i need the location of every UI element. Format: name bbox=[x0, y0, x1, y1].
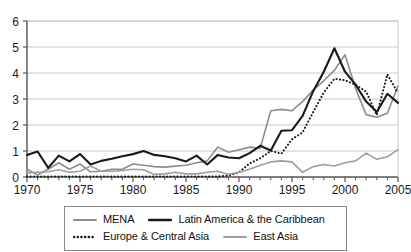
y-tick-labels: 0123456 bbox=[12, 15, 19, 185]
y-tick-label: 6 bbox=[12, 15, 19, 29]
y-tick-label: 4 bbox=[12, 67, 19, 81]
y-tick-label: 2 bbox=[12, 119, 19, 133]
legend-label: MENA bbox=[103, 214, 134, 225]
line-chart: 0123456 19701975198019851990199520002005… bbox=[0, 0, 411, 252]
chart-legend: MENALatin America & the CaribbeanEurope … bbox=[64, 206, 347, 251]
legend-item-europe-central-asia[interactable]: Europe & Central Asia bbox=[73, 231, 209, 242]
x-tick-label: 1995 bbox=[279, 183, 306, 196]
legend-swatch-solid-line-icon bbox=[148, 215, 172, 225]
legend-row: Europe & Central AsiaEast Asia bbox=[73, 228, 338, 245]
x-tick-labels: 19701975198019851990199520002005 bbox=[14, 183, 411, 196]
legend-item-east-asia[interactable]: East Asia bbox=[223, 231, 298, 242]
x-minor-ticks bbox=[27, 177, 398, 182]
x-tick-label: 2005 bbox=[385, 183, 411, 196]
x-tick-label: 2000 bbox=[332, 183, 359, 196]
legend-item-mena[interactable]: MENA bbox=[73, 214, 134, 225]
legend-item-latin-america-the-caribbean[interactable]: Latin America & the Caribbean bbox=[148, 214, 324, 225]
y-tick-label: 3 bbox=[12, 93, 19, 107]
legend-row: MENALatin America & the Caribbean bbox=[73, 211, 338, 228]
y-tick-label: 5 bbox=[12, 41, 19, 55]
legend-label: Europe & Central Asia bbox=[103, 231, 209, 242]
legend-label: Latin America & the Caribbean bbox=[178, 214, 324, 225]
chart-canvas: 0123456 19701975198019851990199520002005 bbox=[0, 0, 411, 196]
legend-swatch-solid-line-icon bbox=[73, 215, 97, 225]
x-tick-label: 1990 bbox=[226, 183, 253, 196]
data-series-group bbox=[27, 48, 398, 176]
legend-swatch-dotted-line-icon bbox=[73, 232, 97, 242]
series-line-latin-america-the-caribbean bbox=[27, 48, 398, 168]
legend-swatch-solid-line-icon bbox=[223, 232, 247, 242]
x-tick-label: 1970 bbox=[14, 183, 41, 196]
legend-label: East Asia bbox=[253, 231, 298, 242]
x-tick-label: 1980 bbox=[120, 183, 147, 196]
x-tick-label: 1985 bbox=[173, 183, 200, 196]
plot-area: 0123456 19701975198019851990199520002005 bbox=[0, 0, 411, 196]
y-tick-label: 1 bbox=[12, 145, 19, 159]
gridlines bbox=[27, 21, 398, 151]
x-tick-label: 1975 bbox=[67, 183, 94, 196]
